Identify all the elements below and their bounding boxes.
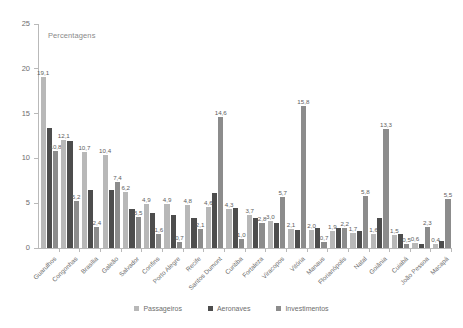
legend-label: Passageiros bbox=[143, 305, 182, 312]
bar-passageiros[interactable] bbox=[144, 204, 149, 248]
bar-slot bbox=[357, 24, 362, 248]
bar-passageiros[interactable] bbox=[123, 192, 128, 248]
bar-aeronaves[interactable] bbox=[357, 231, 362, 248]
bar-investimentos[interactable] bbox=[156, 234, 161, 248]
bar-slot: 10,7 bbox=[82, 24, 87, 248]
bar-aeronaves[interactable] bbox=[233, 208, 238, 248]
bar-investimentos[interactable] bbox=[342, 228, 347, 248]
y-axis-tick-label: 5 bbox=[26, 198, 30, 208]
y-axis-tick-mark bbox=[34, 24, 38, 25]
bar-aeronaves[interactable] bbox=[336, 228, 341, 248]
bar-investimentos[interactable] bbox=[239, 239, 244, 248]
bar-group: 3,05,7 bbox=[266, 24, 287, 248]
x-axis-label-cell: Vitória bbox=[287, 253, 308, 299]
bar-passageiros[interactable] bbox=[164, 204, 169, 248]
bar-slot: 4,3 bbox=[226, 24, 231, 248]
y-axis-tick-label: 20 bbox=[22, 64, 30, 74]
bar-aeronaves[interactable] bbox=[377, 218, 382, 248]
bar-investimentos[interactable] bbox=[136, 217, 141, 248]
bar-passageiros[interactable] bbox=[350, 233, 355, 248]
bar-investimentos[interactable] bbox=[115, 182, 120, 248]
bar-slot: 5,7 bbox=[280, 24, 285, 248]
x-axis-label: Cuiabá bbox=[389, 255, 408, 274]
bar-value-label: 7,4 bbox=[113, 174, 122, 181]
bar-investimentos[interactable] bbox=[53, 151, 58, 248]
bar-passageiros[interactable] bbox=[41, 77, 46, 248]
bar-investimentos[interactable] bbox=[259, 223, 264, 248]
y-axis-tick-label: 0 bbox=[26, 243, 30, 253]
bar-passageiros[interactable] bbox=[206, 207, 211, 248]
bar-investimentos[interactable] bbox=[445, 199, 450, 248]
bar-group: 1,50,5 bbox=[390, 24, 411, 248]
bar-aeronaves[interactable] bbox=[212, 193, 217, 248]
x-axis-label: Galeão bbox=[100, 255, 120, 275]
bar-passageiros[interactable] bbox=[185, 205, 190, 248]
legend-item[interactable]: Investimentos bbox=[276, 305, 328, 312]
bar-slot: 3,5 bbox=[136, 24, 141, 248]
bar-value-label: 2,1 bbox=[196, 221, 205, 228]
bar-group: 0,62,3 bbox=[411, 24, 432, 248]
y-axis-tick: 15 bbox=[0, 109, 38, 119]
bar-aeronaves[interactable] bbox=[295, 230, 300, 248]
bar-investimentos[interactable] bbox=[383, 129, 388, 248]
bar-chart: Percentagens 0510152025 19,110,812,15,21… bbox=[0, 0, 463, 328]
y-axis-tick-mark bbox=[34, 203, 38, 204]
bar-groups: 19,110,812,15,210,72,410,47,46,23,54,91,… bbox=[39, 24, 452, 248]
bar-aeronaves[interactable] bbox=[274, 223, 279, 248]
bar-passageiros[interactable] bbox=[103, 155, 108, 248]
bar-passageiros[interactable] bbox=[268, 221, 273, 248]
bar-aeronaves[interactable] bbox=[109, 190, 114, 248]
x-axis-label-cell: Santos Dumont bbox=[204, 253, 225, 299]
bar-investimentos[interactable] bbox=[280, 197, 285, 248]
bar-passageiros[interactable] bbox=[433, 244, 438, 248]
bar-passageiros[interactable] bbox=[371, 234, 376, 248]
y-axis-tick-mark bbox=[34, 113, 38, 114]
bar-passageiros[interactable] bbox=[61, 140, 66, 248]
bar-investimentos[interactable] bbox=[301, 106, 306, 248]
bar-passageiros[interactable] bbox=[412, 243, 417, 248]
bar-investimentos[interactable] bbox=[321, 242, 326, 248]
bar-slot: 1,7 bbox=[350, 24, 355, 248]
legend-item[interactable]: Aeronaves bbox=[208, 305, 250, 312]
bar-slot bbox=[274, 24, 279, 248]
bar-aeronaves[interactable] bbox=[253, 218, 258, 248]
bar-investimentos[interactable] bbox=[363, 196, 368, 248]
bar-slot: 1,0 bbox=[239, 24, 244, 248]
bar-passageiros[interactable] bbox=[82, 152, 87, 248]
bar-slot: 0,5 bbox=[404, 24, 409, 248]
bar-slot: 1,6 bbox=[156, 24, 161, 248]
bar-slot bbox=[377, 24, 382, 248]
bar-investimentos[interactable] bbox=[404, 244, 409, 248]
legend-item[interactable]: Passageiros bbox=[134, 305, 182, 312]
bar-aeronaves[interactable] bbox=[419, 244, 424, 248]
bar-aeronaves[interactable] bbox=[171, 215, 176, 248]
legend-swatch-icon bbox=[208, 306, 213, 311]
bar-investimentos[interactable] bbox=[74, 201, 79, 248]
bar-group: 0,45,5 bbox=[431, 24, 452, 248]
bar-passageiros[interactable] bbox=[288, 229, 293, 248]
x-axis-label: Macapá bbox=[429, 255, 450, 276]
bar-passageiros[interactable] bbox=[309, 230, 314, 248]
bar-investimentos[interactable] bbox=[218, 117, 223, 248]
bar-investimentos[interactable] bbox=[425, 227, 430, 248]
bar-investimentos[interactable] bbox=[94, 227, 99, 249]
bar-value-label: 5,8 bbox=[361, 188, 370, 195]
x-axis-label-cell: Porto Alegre bbox=[163, 253, 184, 299]
x-axis-label-cell: Galeão bbox=[101, 253, 122, 299]
bar-passageiros[interactable] bbox=[330, 231, 335, 248]
bar-aeronaves[interactable] bbox=[439, 241, 444, 248]
bar-slot: 7,4 bbox=[115, 24, 120, 248]
bar-slot bbox=[315, 24, 320, 248]
bar-group: 4,31,0 bbox=[225, 24, 246, 248]
bar-slot: 1,6 bbox=[371, 24, 376, 248]
bar-slot: 1,5 bbox=[392, 24, 397, 248]
bar-investimentos[interactable] bbox=[177, 242, 182, 248]
bar-investimentos[interactable] bbox=[198, 229, 203, 248]
bar-passageiros[interactable] bbox=[226, 209, 231, 248]
bar-slot: 13,3 bbox=[383, 24, 388, 248]
bar-passageiros[interactable] bbox=[247, 215, 252, 248]
bar-passageiros[interactable] bbox=[392, 235, 397, 248]
bar-slot: 5,5 bbox=[445, 24, 450, 248]
bar-slot bbox=[109, 24, 114, 248]
bar-slot: 0,7 bbox=[321, 24, 326, 248]
